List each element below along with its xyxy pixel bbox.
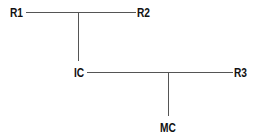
node-r3: R3 [234, 67, 247, 79]
diagram-edges [0, 0, 258, 140]
node-r1: R1 [10, 7, 23, 19]
tree-diagram: R1 R2 IC R3 MC [0, 0, 258, 140]
node-mc: MC [160, 122, 176, 134]
node-r2: R2 [137, 7, 150, 19]
node-ic: IC [74, 67, 84, 79]
